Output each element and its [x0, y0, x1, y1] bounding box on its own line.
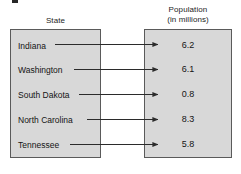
- state-label-north-carolina: North Carolina: [18, 115, 73, 125]
- population-value-3: 0.8: [144, 89, 232, 99]
- state-label-tennessee: Tennessee: [18, 140, 59, 150]
- population-value-4: 8.3: [144, 114, 232, 124]
- population-heading-line-1: Population: [144, 5, 232, 15]
- state-column-heading: State: [10, 16, 101, 26]
- state-label-washington: Washington: [18, 65, 63, 75]
- population-value-2: 6.1: [144, 64, 232, 74]
- population-column-heading: Population (in millions): [144, 5, 232, 24]
- state-label-indiana: Indiana: [18, 41, 46, 51]
- state-panel: Indiana Washington South Dakota North Ca…: [10, 29, 101, 158]
- population-heading-line-2: (in millions): [144, 15, 232, 25]
- state-label-south-dakota: South Dakota: [18, 90, 70, 100]
- population-value-1: 6.2: [144, 40, 232, 50]
- mapping-diagram: State Population (in millions) Indiana W…: [0, 0, 241, 174]
- population-value-5: 5.8: [144, 139, 232, 149]
- stray-ink-mark: [12, 0, 18, 3]
